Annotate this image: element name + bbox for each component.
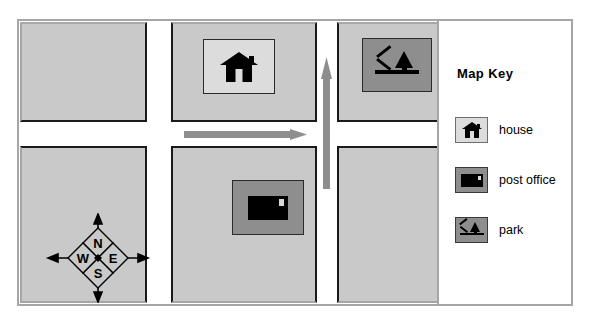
park-icon	[375, 51, 419, 79]
post-office-marker[interactable]	[232, 180, 304, 235]
key-entry-park[interactable]: park	[455, 217, 523, 243]
key-swatch-house	[455, 117, 488, 143]
house-icon	[220, 52, 258, 82]
park-icon	[460, 222, 484, 238]
post-office-icon	[248, 196, 288, 220]
southeast-block	[171, 146, 317, 303]
compass-west-label: W	[77, 251, 90, 266]
map-figure: N E S W	[0, 0, 591, 321]
key-label-park: park	[499, 223, 523, 237]
house-icon	[462, 122, 482, 138]
far-southeast-block	[337, 146, 437, 303]
southwest-block: N E S W	[20, 146, 147, 303]
key-swatch-post-office	[455, 167, 488, 193]
key-entry-house[interactable]: house	[455, 117, 533, 143]
key-label-house: house	[499, 123, 533, 137]
house-marker[interactable]	[203, 39, 275, 94]
key-label-post-office: post office	[499, 173, 556, 187]
compass-rose: N E S W	[42, 213, 154, 303]
map-key-panel: Map Key house po	[437, 21, 571, 304]
northbound-arrow	[321, 57, 332, 189]
northwest-block	[20, 22, 147, 122]
map-frame: N E S W	[17, 19, 573, 306]
key-entry-post-office[interactable]: post office	[455, 167, 556, 193]
park-marker[interactable]	[362, 38, 432, 92]
northeast-block	[171, 22, 317, 122]
compass-north-label: N	[93, 236, 102, 251]
far-northeast-block	[337, 22, 437, 122]
map-area: N E S W	[19, 21, 437, 304]
compass-south-label: S	[94, 266, 103, 281]
map-key-title: Map Key	[457, 66, 513, 81]
key-swatch-park	[455, 217, 488, 243]
eastbound-arrow	[184, 129, 307, 140]
compass-east-label: E	[109, 251, 118, 266]
post-office-icon	[461, 174, 483, 187]
